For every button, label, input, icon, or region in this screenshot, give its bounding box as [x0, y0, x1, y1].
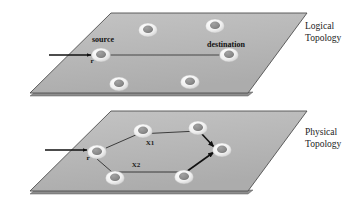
logical-node-destination	[220, 48, 239, 62]
logical-node-bottom-left	[110, 77, 129, 91]
logical-node-source	[92, 48, 111, 62]
physical-node-lower-right	[175, 170, 194, 184]
destination-label: destination	[207, 40, 245, 49]
physical-ingress-label: r	[86, 154, 89, 162]
physical-node-upper-right	[189, 121, 208, 135]
topology-diagram: source destination r Logical Topology	[0, 0, 359, 204]
physical-plane-label-line1: Physical	[305, 127, 338, 137]
logical-node-top-left	[139, 23, 158, 37]
logical-node-top-right	[206, 19, 225, 33]
diagram-canvas: source destination r Logical Topology	[0, 0, 359, 204]
logical-plane-label-line1: Logical	[305, 21, 334, 31]
physical-path-label-lower: X2	[132, 161, 141, 169]
physical-node-upper-mid	[134, 124, 153, 138]
logical-node-bottom-right	[181, 75, 200, 89]
logical-plane-label-line2: Topology	[305, 33, 342, 43]
physical-plane-label-line2: Topology	[305, 139, 342, 149]
physical-node-lower-left	[106, 171, 125, 185]
physical-path-label-upper: X1	[146, 139, 155, 147]
logical-ingress-label: r	[90, 57, 93, 65]
physical-node-destination	[213, 143, 232, 157]
source-label: source	[92, 35, 115, 44]
physical-node-source	[88, 145, 107, 159]
